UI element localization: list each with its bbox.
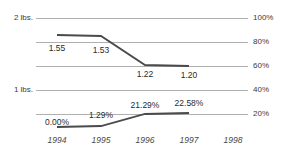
data-label-weight-1996: 1.22: [126, 70, 164, 79]
axis-x-tick-1995: 1995: [79, 136, 123, 145]
data-label-percent-1994: 0.00%: [34, 118, 80, 127]
data-label-percent-1995: 1.29%: [78, 111, 124, 120]
weight-series-line: [57, 35, 189, 66]
data-label-percent-1997: 22.58%: [164, 99, 214, 108]
data-label-weight-1997: 1.20: [170, 71, 208, 80]
data-label-weight-1994: 1.55: [38, 44, 76, 53]
data-label-weight-1995: 1.53: [82, 46, 120, 55]
data-label-percent-1996: 21.29%: [120, 101, 170, 110]
axis-x-tick-1997: 1997: [167, 136, 211, 145]
axis-x-tick-1994: 1994: [35, 136, 79, 145]
dual-axis-line-chart: 2 lbs. 1 lbs. 100% 80% 60% 40% 20% 1.55 …: [0, 0, 289, 154]
axis-x-tick-1996: 1996: [123, 136, 167, 145]
axis-x-tick-1998: 1998: [211, 136, 255, 145]
